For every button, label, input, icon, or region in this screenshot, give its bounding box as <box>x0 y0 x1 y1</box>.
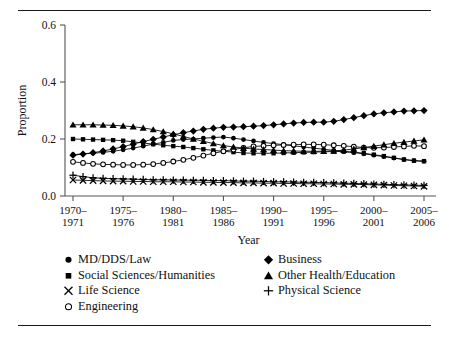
data-point <box>81 161 86 166</box>
data-point <box>382 154 386 158</box>
data-point <box>171 159 176 164</box>
triangle-filled-icon <box>262 269 275 282</box>
data-point <box>161 161 166 166</box>
x-tick-label: 1971 <box>62 216 84 228</box>
legend-label: Life Science <box>78 284 140 297</box>
legend-label: Engineering <box>78 300 138 313</box>
x-tick-label: 2005– <box>410 204 438 216</box>
x-tick-label: 1975– <box>109 204 137 216</box>
x-tick-label: 2006 <box>413 216 436 228</box>
legend-item[interactable]: MD/DDS/Law <box>62 252 215 268</box>
data-point <box>330 179 337 186</box>
data-point <box>300 179 307 186</box>
data-point <box>370 110 377 117</box>
y-tick-label: 0.0 <box>42 190 57 202</box>
data-point <box>150 176 157 183</box>
data-point <box>171 144 175 148</box>
x-tick-label: 1986 <box>212 216 235 228</box>
data-point <box>330 118 337 125</box>
data-point <box>250 123 257 130</box>
data-point <box>362 151 366 155</box>
data-point <box>340 116 347 123</box>
legend-label: Business <box>278 253 322 266</box>
data-point <box>210 125 217 132</box>
data-point <box>211 135 216 140</box>
data-point <box>210 177 217 184</box>
data-point <box>91 161 96 166</box>
data-point <box>422 144 427 149</box>
data-point <box>321 142 326 147</box>
x-tick-label: 1991 <box>263 216 285 228</box>
circle-filled-icon <box>62 253 75 266</box>
legend-item[interactable]: Other Health/Education <box>262 268 395 284</box>
data-point <box>241 137 246 142</box>
data-point <box>91 137 95 141</box>
data-point <box>220 177 227 184</box>
data-point <box>140 176 147 183</box>
axes: 0.00.20.40.6Proportion1970–19711975–1976… <box>15 19 438 247</box>
x-tick-label: 1995– <box>310 204 338 216</box>
data-point <box>270 121 277 128</box>
x-axis-title: Year <box>237 233 259 247</box>
legend-label: Other Health/Education <box>278 269 395 282</box>
x-tick-label: 1970– <box>59 204 87 216</box>
legend-marker <box>264 255 273 264</box>
x-icon <box>62 284 75 297</box>
data-point <box>211 151 216 156</box>
x-tick-label: 1990– <box>260 204 288 216</box>
data-point <box>270 178 277 185</box>
data-point <box>340 180 347 187</box>
legend-item[interactable]: Business <box>262 252 395 268</box>
data-point <box>310 119 317 126</box>
data-point <box>420 136 427 142</box>
plot-area: 0.00.20.40.6Proportion1970–19711975–1976… <box>0 0 449 250</box>
data-point <box>221 135 226 140</box>
data-point <box>231 136 236 141</box>
data-point <box>191 146 195 150</box>
x-tick-label: 2000– <box>360 204 388 216</box>
data-point <box>200 126 207 133</box>
data-point <box>260 122 267 129</box>
data-point <box>161 143 165 147</box>
legend-item[interactable]: Social Sciences/Humanities <box>62 268 215 284</box>
data-point <box>191 155 196 160</box>
data-point <box>230 177 237 184</box>
data-point <box>410 107 417 114</box>
data-point <box>250 178 257 185</box>
y-tick-label: 0.4 <box>42 76 57 88</box>
data-point <box>230 123 237 130</box>
legend-marker <box>65 257 71 263</box>
data-point <box>241 151 245 155</box>
legend-item[interactable]: Physical Science <box>262 283 395 299</box>
data-point <box>260 178 267 185</box>
x-tick-label: 1980– <box>160 204 188 216</box>
x-tick-label: 2001 <box>363 216 385 228</box>
data-point <box>280 178 287 185</box>
data-point <box>280 120 287 127</box>
data-point <box>89 149 96 156</box>
data-point <box>290 178 297 185</box>
data-point <box>99 147 106 154</box>
data-point <box>301 142 306 147</box>
y-axis-title: Proportion <box>15 85 29 136</box>
data-point <box>81 137 85 141</box>
data-point <box>181 145 185 149</box>
data-point <box>201 147 205 151</box>
data-point <box>141 162 146 167</box>
data-point <box>311 142 316 147</box>
data-point <box>310 179 317 186</box>
legend-item[interactable]: Engineering <box>62 299 215 315</box>
data-point <box>320 119 327 126</box>
data-point <box>240 178 247 185</box>
legend-item[interactable]: Life Science <box>62 283 215 299</box>
data-point <box>79 173 86 180</box>
x-tick-label: 1981 <box>162 216 184 228</box>
figure-container: 0.00.20.40.6Proportion1970–19711975–1976… <box>0 0 449 339</box>
data-point <box>160 133 167 140</box>
legend-column-left: MD/DDS/LawSocial Sciences/HumanitiesLife… <box>62 252 215 314</box>
data-point <box>140 138 147 145</box>
x-tick-label: 1985– <box>210 204 238 216</box>
legend-marker <box>66 273 72 279</box>
x-tick-label: 1996 <box>313 216 336 228</box>
series-physical-science <box>69 172 427 190</box>
